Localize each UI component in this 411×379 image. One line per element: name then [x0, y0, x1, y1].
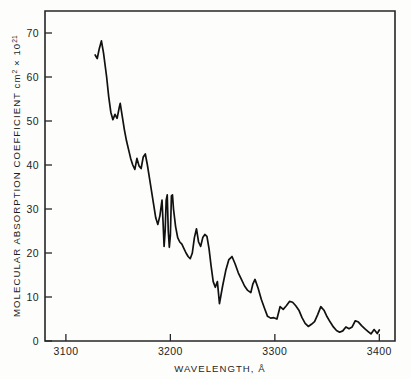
y-tick-label: 50 — [27, 115, 39, 127]
y-tick-label: 20 — [27, 247, 39, 259]
y-tick-label: 60 — [27, 71, 39, 83]
y-axis-title-main: MOLECULAR ABSORPTION COEFFICIENT cm — [11, 74, 22, 317]
plot-frame — [45, 11, 395, 341]
y-tick-label: 30 — [27, 203, 39, 215]
x-axis-ticks — [66, 334, 379, 341]
x-axis-title: WAVELENGTH, Å — [174, 363, 265, 374]
y-tick-label: 40 — [27, 159, 39, 171]
x-tick-label: 3400 — [367, 345, 392, 357]
x-tick-label: 3300 — [262, 345, 287, 357]
absorption-spectrum-chart: 010203040506070 3100320033003400 WAVELEN… — [0, 0, 411, 379]
y-axis-title-mid: × 10 — [11, 43, 22, 70]
y-tick-label: 70 — [27, 27, 39, 39]
x-tick-label: 3100 — [53, 345, 78, 357]
y-tick-label: 10 — [27, 291, 39, 303]
y-axis-ticks — [45, 33, 52, 341]
x-tick-label: 3200 — [158, 345, 183, 357]
y-axis-title: MOLECULAR ABSORPTION COEFFICIENT cm2 × 1… — [11, 35, 23, 317]
y-axis-tick-labels: 010203040506070 — [27, 27, 39, 347]
y-axis-title-superscript-exponent: 21 — [11, 35, 18, 43]
x-axis-tick-labels: 3100320033003400 — [53, 345, 391, 357]
y-tick-label: 0 — [33, 335, 39, 347]
figure-container: 010203040506070 3100320033003400 WAVELEN… — [0, 0, 411, 379]
spectrum-line — [95, 41, 379, 334]
